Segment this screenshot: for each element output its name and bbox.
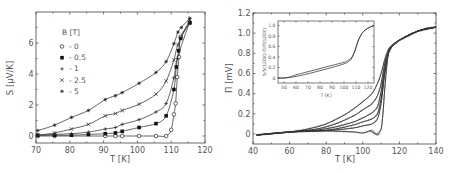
y-tick-label: 0.2	[268, 65, 275, 70]
x-tick-label: 50	[281, 85, 287, 90]
x-tick-label: 100	[130, 146, 145, 155]
x-tick-label: 60	[293, 85, 299, 90]
y-tick-label: 0.8	[238, 49, 251, 58]
y-tick-label: 1.0	[238, 29, 251, 38]
left-x-axis-label: T [K]	[109, 154, 130, 164]
series-markers	[36, 18, 192, 137]
left-legend: B [T] - 0- 0.5- 1- 2.5- 5	[60, 28, 86, 96]
y-tick-label: 0	[245, 130, 250, 139]
x-tick-label: 70	[305, 85, 311, 90]
right-y-axis-label: Π [mV]	[224, 63, 234, 93]
x-tick-label: 110	[352, 85, 361, 90]
y-tick-label: 0.8	[268, 34, 275, 39]
y-tick-label: 0.4	[238, 89, 251, 98]
y-tick-label: 0.6	[268, 44, 275, 49]
legend-label: - 2.5	[69, 76, 86, 85]
x-tick-label: 120	[197, 146, 212, 155]
x-tick-label: 80	[317, 85, 323, 90]
x-tick-label: 90	[329, 85, 335, 90]
y-tick-label: 4	[28, 70, 33, 79]
series-markers	[36, 21, 192, 138]
inset-frame	[278, 21, 374, 83]
y-tick-label: 2	[28, 101, 33, 110]
y-tick-label: 0.4	[268, 55, 275, 60]
y-tick-label: 0.2	[238, 110, 251, 119]
y-tick-label: 0	[273, 76, 276, 81]
legend-entry: - 0.5	[60, 53, 86, 62]
x-tick-label: 140	[428, 147, 443, 156]
legend-entry: - 0	[60, 42, 79, 51]
figure: 708090100110120 0246 T [K] S [μV/K] B [T…	[0, 0, 462, 174]
y-tick-label: 6	[28, 39, 33, 48]
x-tick-label: 60	[285, 147, 295, 156]
left-y-axis-label: S [μV/K]	[5, 61, 15, 95]
y-tick-label: 1.0	[268, 23, 275, 28]
inset-y-axis-label: S/S(120K) Π/Π(120K)	[262, 28, 267, 76]
x-tick-label: 110	[164, 146, 179, 155]
x-tick-label: 90	[99, 146, 109, 155]
x-tick-label: 70	[31, 146, 41, 155]
right-chart: 406080100120140 00.20.40.60.81.01.2 T [K…	[224, 9, 444, 164]
left-chart: 708090100110120 0246 T [K] S [μV/K] B [T…	[5, 12, 213, 164]
legend-entry: - 1	[60, 64, 79, 73]
series-markers	[36, 20, 192, 138]
x-tick-label: 100	[355, 147, 370, 156]
y-tick-label: 0	[28, 132, 33, 141]
legend-entries: - 0- 0.5- 1- 2.5- 5	[60, 42, 86, 96]
y-tick-label: 0.6	[238, 69, 251, 78]
legend-title: B [T]	[62, 28, 80, 37]
inset-chart: 5060708090100110120 00.20.40.60.81.0 T […	[262, 21, 374, 98]
legend-label: - 0	[69, 42, 79, 51]
y-tick-label: 1.2	[238, 9, 251, 18]
x-tick-label: 120	[392, 147, 407, 156]
x-tick-label: 100	[340, 85, 349, 90]
legend-label: - 0.5	[69, 53, 86, 62]
series-markers	[36, 21, 192, 137]
legend-entry: - 5	[60, 87, 79, 96]
left-series	[36, 16, 192, 137]
legend-entry: - 2.5	[60, 76, 86, 85]
x-tick-label: 120	[364, 85, 373, 90]
right-x-axis-label: T [K]	[334, 154, 355, 164]
x-tick-label: 40	[248, 147, 258, 156]
legend-label: - 1	[69, 64, 79, 73]
x-tick-label: 80	[65, 146, 75, 155]
legend-label: - 5	[69, 87, 79, 96]
series-line	[38, 20, 190, 135]
inset-x-axis-label: T [K]	[320, 93, 332, 98]
x-tick-label: 80	[321, 147, 331, 156]
